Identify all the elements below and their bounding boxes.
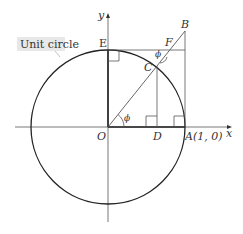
segment-OB [108,31,185,127]
point-C-label: C [144,61,153,74]
unit-circle-diagram: Unit circle y x E F B C O D A(1, 0) ϕ ϕ [0,0,243,234]
y-axis-arrow-icon [106,13,110,18]
right-angle-D [146,116,157,127]
point-A-label: A(1, 0) [184,130,223,143]
x-axis-label: x [226,127,233,140]
callout-leader [55,51,60,57]
point-F-label: F [164,36,173,49]
right-angle-A [174,116,185,127]
y-axis-label: y [97,9,105,22]
point-O-label: O [97,130,106,143]
angle-F-label: ϕ [155,49,161,59]
point-B-label: B [180,18,189,31]
angle-O-label: ϕ [124,113,130,123]
callout-label: Unit circle [20,38,79,51]
right-angle-E [108,50,119,61]
point-E-label: E [99,37,107,50]
point-D-label: D [152,130,162,143]
